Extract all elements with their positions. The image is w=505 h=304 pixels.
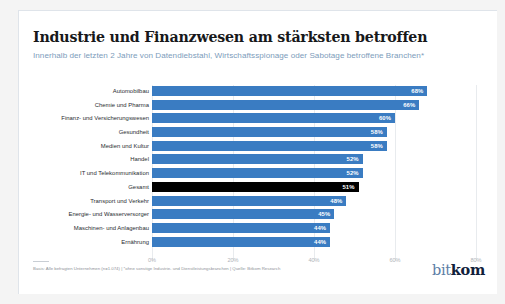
chart-subtitle: Innerhalb der letzten 2 Jahre von Datend… [33,51,424,60]
bar-value-label: 44% [314,239,326,245]
bar-row: Automobilbau68% [19,84,497,98]
bar-highlight: 51% [152,182,359,192]
bar: 48% [152,196,346,206]
bar: 52% [152,154,363,164]
bar-row: Ernährung44% [19,235,497,249]
bar-row: Transport und Verkehr48% [19,194,497,208]
bar: 52% [152,168,363,178]
bar-row: Gesamt51% [19,180,497,194]
bar-category-label: Transport und Verkehr [90,198,149,204]
bar-category-label: Gesamt [128,184,149,190]
bar-value-label: 58% [371,143,383,149]
bar-value-label: 48% [330,198,342,204]
bar: 58% [152,127,387,137]
bar-row: IT und Telekommunikation52% [19,166,497,180]
bar: 44% [152,223,330,233]
bar-row: Medien und Kultur58% [19,139,497,153]
bar-value-label: 52% [347,156,359,162]
x-axis-tick-label: 60% [389,257,400,263]
bar-category-label: Energie- und Wasserversorger [68,211,149,217]
bar-category-label: Gesundheit [119,129,149,135]
x-axis-tick-label: 40% [308,257,319,263]
bar-row: Chemie und Pharma66% [19,98,497,112]
bitkom-logo: bitkom [432,263,485,278]
page-title: Industrie und Finanzwesen am stärksten b… [33,29,427,45]
x-axis-tick-label: 0% [148,257,156,263]
bar-row: Handel52% [19,153,497,167]
bar-value-label: 68% [411,88,423,94]
bar-value-label: 60% [379,115,391,121]
chart-card: Industrie und Finanzwesen am stärksten b… [18,10,497,294]
bar-row: Finanz- und Versicherungswesen60% [19,111,497,125]
bar: 60% [152,113,395,123]
bar-value-label: 44% [314,225,326,231]
bar-category-label: Maschinen- und Anlagenbau [74,225,149,231]
logo-text-kom: kom [451,261,485,278]
bar: 58% [152,141,387,151]
bar-value-label: 58% [371,129,383,135]
bar: 44% [152,237,330,247]
bar-category-label: Chemie und Pharma [95,102,149,108]
bar-value-label: 45% [318,211,330,217]
bar-row: Energie- und Wasserversorger45% [19,207,497,221]
bar: 66% [152,100,419,110]
bar-value-label: 52% [347,170,359,176]
bar-category-label: Medien und Kultur [101,143,149,149]
bar: 45% [152,209,334,219]
logo-text-bit: bit [432,262,451,278]
bar-row: Gesundheit58% [19,125,497,139]
bar-value-label: 66% [403,102,415,108]
source-note: Basis: Alle befragten Unternehmen (n=1.0… [33,266,280,271]
bar-chart-plot: Automobilbau68%Chemie und Pharma66%Finan… [19,73,497,263]
bar-row: Maschinen- und Anlagenbau44% [19,221,497,235]
bar-category-label: Finanz- und Versicherungswesen [61,115,149,121]
bar: 68% [152,86,427,96]
x-axis-tick-label: 20% [227,257,238,263]
bar-category-label: Ernährung [121,239,149,245]
bar-category-label: Automobilbau [113,88,149,94]
footnote-divider [33,261,49,262]
bar-value-label: 51% [342,184,354,190]
bar-category-label: Handel [130,156,149,162]
bar-category-label: IT und Telekommunikation [80,170,149,176]
page-background: Industrie und Finanzwesen am stärksten b… [0,0,505,304]
